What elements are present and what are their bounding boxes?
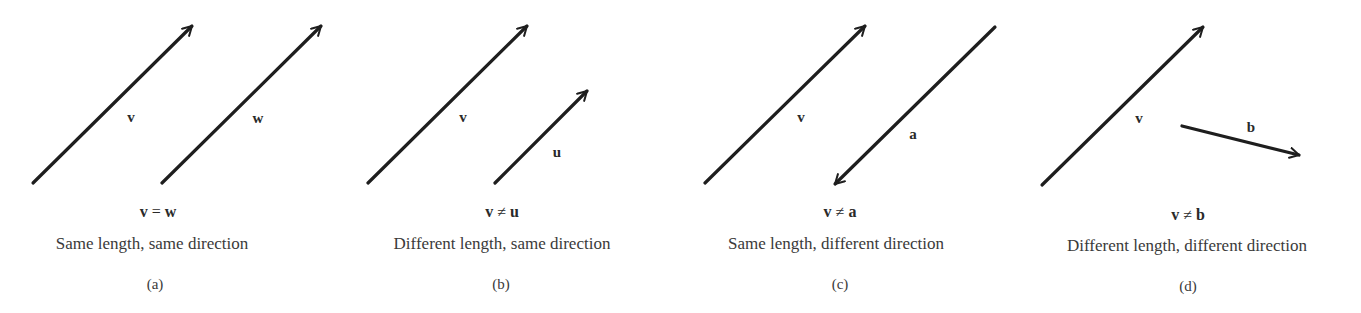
relation-equation: v≠u <box>485 203 519 221</box>
vector-equality-figure: v w v=w Same length, same direction (a) … <box>0 0 1361 313</box>
panel-caption: Different length, different direction <box>1067 236 1307 256</box>
vector-v-arrow <box>368 26 527 183</box>
vector-v-label: v <box>1135 110 1143 127</box>
relation-equation: v≠b <box>1171 206 1205 224</box>
vector-v-label: v <box>459 109 467 126</box>
relation-left: v <box>485 203 493 220</box>
vector-a-label: a <box>909 126 917 143</box>
relation-equation: v=w <box>140 203 177 221</box>
arrows-layer <box>0 0 1361 313</box>
relation-left: v <box>824 203 832 220</box>
panel-a-arrows <box>33 26 321 183</box>
vector-v-arrow <box>705 26 865 183</box>
vector-v-arrow <box>1042 27 1203 185</box>
vector-v-arrow <box>33 26 192 183</box>
relation-left: v <box>1171 206 1179 223</box>
relation-right: w <box>165 203 177 220</box>
vector-b-label: b <box>1247 119 1255 136</box>
panel-id: (d) <box>1179 278 1197 295</box>
relation-operator: ≠ <box>1179 206 1196 223</box>
panel-caption: Different length, same direction <box>394 234 611 254</box>
vector-u-arrow <box>495 91 587 183</box>
relation-operator: = <box>148 203 165 220</box>
panel-id: (b) <box>492 276 510 293</box>
panel-id: (c) <box>832 276 849 293</box>
relation-left: v <box>140 203 148 220</box>
panel-caption: Same length, same direction <box>56 234 249 254</box>
panel-id: (a) <box>147 276 164 293</box>
vector-w-label: w <box>253 110 264 127</box>
relation-operator: ≠ <box>493 203 510 220</box>
vector-b-arrow <box>1182 126 1299 155</box>
relation-right: u <box>510 203 519 220</box>
relation-right: b <box>1196 206 1205 223</box>
panel-caption: Same length, different direction <box>728 234 944 254</box>
relation-right: a <box>848 203 856 220</box>
vector-u-label: u <box>553 144 561 161</box>
relation-equation: v≠a <box>824 203 857 221</box>
vector-v-label: v <box>797 109 805 126</box>
panel-d-arrows <box>1042 27 1299 185</box>
relation-operator: ≠ <box>832 203 849 220</box>
panel-c-arrows <box>705 26 995 184</box>
vector-v-label: v <box>127 109 135 126</box>
vector-a-arrow <box>835 27 995 184</box>
vector-w-arrow <box>162 26 321 183</box>
